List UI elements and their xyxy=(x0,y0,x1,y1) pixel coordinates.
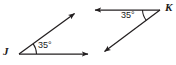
vertex-label-j: J xyxy=(3,46,9,57)
geometry-figure: J K 35° 35° xyxy=(0,0,176,65)
angle-arc-k xyxy=(143,10,147,20)
angle-measure-k: 35° xyxy=(121,11,135,20)
angle-arc-j xyxy=(33,44,36,54)
vertex-label-k: K xyxy=(165,2,172,13)
geometry-canvas xyxy=(0,0,176,65)
angle-measure-j: 35° xyxy=(38,41,52,50)
